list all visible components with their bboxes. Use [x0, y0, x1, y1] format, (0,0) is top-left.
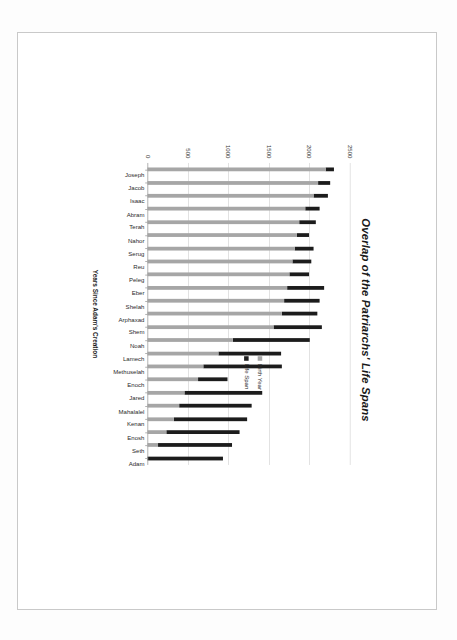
- bar-segment-life-span[interactable]: [297, 233, 309, 237]
- bar-segment-birth-year[interactable]: [147, 365, 203, 369]
- value-axis-tick-label: 2500: [346, 145, 353, 158]
- bar-segment-life-span[interactable]: [197, 378, 227, 382]
- chart-container: Overlap of the Patriarchs' Life Spans 05…: [81, 116, 377, 524]
- bar-segment-life-span[interactable]: [281, 312, 316, 316]
- legend-label-life-span: Life Span: [243, 364, 250, 390]
- plot-area: 05001000150020002500: [147, 163, 349, 465]
- bar-segment-life-span[interactable]: [325, 168, 334, 172]
- stacked-bar[interactable]: [147, 430, 239, 434]
- bar-segment-birth-year[interactable]: [147, 168, 325, 172]
- category-label: Enoch: [144, 382, 197, 389]
- chart-title: Overlap of the Patriarchs' Life Spans: [359, 116, 372, 524]
- stacked-bar[interactable]: [147, 168, 334, 172]
- bar-segment-birth-year[interactable]: [147, 207, 305, 211]
- category-label: Shem: [144, 329, 197, 336]
- legend-swatch-life-span-icon: [244, 356, 249, 361]
- scanned-page: Overlap of the Patriarchs' Life Spans 05…: [0, 0, 457, 640]
- bar-segment-birth-year[interactable]: [147, 404, 179, 408]
- legend-item-birth-year: Birth Year: [256, 356, 263, 390]
- category-label: Eber: [144, 290, 197, 297]
- bar-segment-life-span[interactable]: [273, 325, 322, 329]
- category-label: Terah: [144, 224, 197, 231]
- bar-series-group: [147, 163, 349, 465]
- value-axis-tick-label: 1000: [224, 145, 231, 158]
- legend-label-birth-year: Birth Year: [256, 364, 263, 390]
- category-label: Serug: [144, 251, 197, 258]
- bar-segment-life-span[interactable]: [157, 443, 231, 447]
- category-label: Shelah: [144, 303, 197, 310]
- bar-segment-life-span[interactable]: [166, 430, 239, 434]
- category-label: Adam: [144, 461, 197, 468]
- stacked-bar[interactable]: [147, 338, 309, 342]
- category-label: Joseph: [144, 172, 197, 179]
- stacked-bar[interactable]: [147, 233, 309, 237]
- bar-segment-life-span[interactable]: [292, 260, 311, 264]
- value-axis-tick-label: 0: [144, 155, 151, 158]
- bar-segment-life-span[interactable]: [313, 194, 328, 198]
- category-label: Kenan: [144, 421, 197, 428]
- category-label: Noah: [144, 342, 197, 349]
- stacked-bar[interactable]: [147, 299, 319, 303]
- category-label: Peleg: [144, 277, 197, 284]
- value-axis-title: Years Since Adam's Creation: [91, 163, 99, 465]
- category-label: Nahor: [144, 237, 197, 244]
- category-label: Enosh: [144, 434, 197, 441]
- bar-segment-life-span[interactable]: [284, 299, 319, 303]
- bar-segment-life-span[interactable]: [286, 286, 324, 290]
- legend-item-life-span: Life Span: [243, 356, 250, 390]
- bar-segment-birth-year[interactable]: [147, 338, 232, 342]
- bar-segment-birth-year[interactable]: [147, 430, 166, 434]
- stacked-bar[interactable]: [147, 207, 319, 211]
- bar-segment-life-span[interactable]: [294, 246, 313, 250]
- stacked-bar[interactable]: [147, 404, 251, 408]
- category-label: Reu: [144, 264, 197, 271]
- bar-segment-life-span[interactable]: [179, 404, 251, 408]
- bar-segment-life-span[interactable]: [318, 181, 330, 185]
- category-label: Mahalalel: [144, 408, 197, 415]
- bar-segment-life-span[interactable]: [305, 207, 319, 211]
- bar-segment-life-span[interactable]: [232, 338, 309, 342]
- category-label: Seth: [144, 448, 197, 455]
- bar-segment-life-span[interactable]: [289, 273, 308, 277]
- bar-segment-life-span[interactable]: [299, 220, 316, 224]
- stacked-bar[interactable]: [147, 378, 227, 382]
- bar-segment-birth-year[interactable]: [147, 273, 289, 277]
- bar-segment-birth-year[interactable]: [147, 443, 158, 447]
- axis-baseline: [147, 163, 148, 465]
- legend-swatch-birth-year-icon: [258, 356, 263, 361]
- value-axis-tick-label: 2000: [305, 145, 312, 158]
- stacked-bar[interactable]: [147, 443, 231, 447]
- category-label: Jacob: [144, 185, 197, 192]
- bar-segment-birth-year[interactable]: [147, 299, 284, 303]
- bar-segment-birth-year[interactable]: [147, 378, 197, 382]
- value-axis-tick-label: 1500: [265, 145, 272, 158]
- category-label: Abram: [144, 211, 197, 218]
- category-label: Jared: [144, 395, 197, 402]
- category-label: Methuselah: [144, 369, 197, 376]
- category-label: Lamech: [144, 356, 197, 363]
- chart-legend: Birth Year Life Span: [236, 356, 263, 390]
- bar-segment-life-span[interactable]: [218, 351, 281, 355]
- category-label: Arphaxad: [144, 316, 197, 323]
- stacked-bar[interactable]: [147, 273, 309, 277]
- value-axis-tick-label: 500: [184, 148, 191, 158]
- bar-segment-birth-year[interactable]: [147, 233, 297, 237]
- category-label: Isaac: [144, 198, 197, 205]
